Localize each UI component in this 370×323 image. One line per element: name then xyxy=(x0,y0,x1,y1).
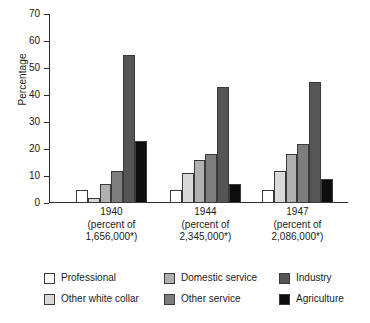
bar[interactable] xyxy=(205,154,217,203)
x-axis-group-sublabel-line1: (percent of xyxy=(242,219,352,232)
bar[interactable] xyxy=(111,171,123,203)
bar-group xyxy=(262,14,333,203)
legend-swatch-icon xyxy=(279,273,290,284)
x-axis-group-year: 1947 xyxy=(242,206,352,219)
legend-label: Domestic service xyxy=(181,272,257,284)
legend-swatch-icon xyxy=(164,294,175,305)
bar[interactable] xyxy=(88,198,100,203)
y-axis-tick-label: 0 xyxy=(34,196,40,209)
legend-item[interactable]: Domestic service xyxy=(164,272,257,284)
bar[interactable] xyxy=(170,190,182,204)
y-axis-title: Percentage xyxy=(17,20,28,140)
legend-swatch-icon xyxy=(44,294,55,305)
chart-legend: ProfessionalOther white collarDomestic s… xyxy=(44,272,354,314)
y-axis-tick: 50 xyxy=(44,68,49,69)
bar[interactable] xyxy=(217,87,229,203)
legend-label: Professional xyxy=(61,272,116,284)
y-axis-tick-label: 30 xyxy=(29,115,40,128)
legend-item[interactable]: Agriculture xyxy=(279,293,344,305)
legend-label: Industry xyxy=(296,272,332,284)
y-axis-tick-label: 60 xyxy=(29,34,40,47)
y-axis-tick: 10 xyxy=(44,176,49,177)
bar[interactable] xyxy=(182,173,194,203)
bar[interactable] xyxy=(123,55,135,204)
bar[interactable] xyxy=(297,144,309,203)
y-axis-tick: 40 xyxy=(44,95,49,96)
legend-item[interactable]: Other service xyxy=(164,293,240,305)
y-axis-tick-label: 70 xyxy=(29,7,40,20)
y-axis-tick: 70 xyxy=(44,14,49,15)
bar-chart: Percentage 010203040506070 1940(percent … xyxy=(0,0,370,323)
legend-label: Agriculture xyxy=(296,293,344,305)
bar-group xyxy=(170,14,241,203)
bar[interactable] xyxy=(76,190,88,204)
bar[interactable] xyxy=(309,82,321,204)
y-axis-tick-label: 50 xyxy=(29,61,40,74)
bar[interactable] xyxy=(321,179,333,203)
y-axis-tick: 30 xyxy=(44,122,49,123)
legend-swatch-icon xyxy=(44,273,55,284)
legend-label: Other service xyxy=(181,293,240,305)
y-axis-tick: 20 xyxy=(44,149,49,150)
bar[interactable] xyxy=(100,184,112,203)
bar[interactable] xyxy=(274,171,286,203)
y-axis-line xyxy=(49,14,50,203)
y-axis-tick-label: 10 xyxy=(29,169,40,182)
legend-item[interactable]: Industry xyxy=(279,272,332,284)
x-axis-group-label: 1947(percent of2,086,000*) xyxy=(242,206,352,244)
legend-swatch-icon xyxy=(279,294,290,305)
bar[interactable] xyxy=(135,141,147,203)
x-axis-group-labels: 1940(percent of1,656,000*)1944(percent o… xyxy=(49,206,348,256)
bar[interactable] xyxy=(194,160,206,203)
legend-label: Other white collar xyxy=(61,293,139,305)
legend-item[interactable]: Professional xyxy=(44,272,116,284)
plot-area: 010203040506070 xyxy=(49,14,348,203)
legend-swatch-icon xyxy=(164,273,175,284)
y-axis-tick-label: 20 xyxy=(29,142,40,155)
y-axis-tick: 0 xyxy=(44,203,49,204)
bar[interactable] xyxy=(262,190,274,204)
x-axis-group-sublabel-line2: 2,086,000*) xyxy=(242,231,352,244)
bar[interactable] xyxy=(286,154,298,203)
bar[interactable] xyxy=(229,184,241,203)
y-axis-tick: 60 xyxy=(44,41,49,42)
y-axis-tick-label: 40 xyxy=(29,88,40,101)
legend-item[interactable]: Other white collar xyxy=(44,293,139,305)
bar-group xyxy=(76,14,147,203)
